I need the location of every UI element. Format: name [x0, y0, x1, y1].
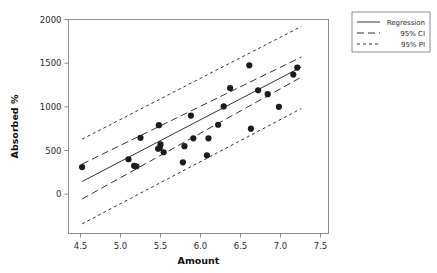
legend-label: 95% CI [400, 30, 425, 38]
data-point [190, 135, 196, 141]
x-axis-ticks [81, 234, 321, 238]
x-tick-label: 7.0 [274, 241, 288, 251]
data-point [161, 149, 167, 155]
data-point [205, 135, 211, 141]
y-tick-label: 500 [45, 146, 61, 156]
series-line [82, 26, 301, 139]
data-point [180, 159, 186, 165]
data-point [276, 104, 282, 110]
chart-legend: Regression95% CI95% PI [352, 12, 430, 52]
data-point [227, 85, 233, 91]
x-tick-label: 6.5 [234, 241, 248, 251]
x-tick-labels: 4.55.05.56.06.57.07.5 [74, 241, 328, 251]
data-point [290, 71, 296, 77]
confidence-bands [82, 26, 301, 223]
data-point [157, 141, 163, 147]
series-line [82, 109, 301, 224]
y-axis-title: Absorbed % [9, 94, 20, 158]
y-tick-labels: 0500100015002000 [40, 15, 62, 200]
x-tick-label: 5.0 [114, 241, 128, 251]
data-point [215, 122, 221, 128]
data-point [248, 126, 254, 132]
y-tick-label: 2000 [40, 15, 62, 25]
data-point [181, 143, 187, 149]
series-line [82, 67, 301, 181]
data-point [246, 62, 252, 68]
data-point [125, 156, 131, 162]
data-point [79, 164, 85, 170]
data-point [294, 64, 300, 70]
y-tick-label: 1500 [40, 58, 62, 68]
legend-label: Regression [387, 19, 425, 27]
data-point [156, 122, 162, 128]
x-tick-label: 7.5 [314, 241, 328, 251]
data-point [204, 152, 210, 158]
series-line [82, 57, 301, 164]
x-tick-label: 6.0 [194, 241, 208, 251]
data-point [133, 163, 139, 169]
y-axis-ticks [65, 20, 69, 195]
x-tick-label: 4.5 [74, 241, 88, 251]
data-points [79, 62, 300, 170]
chart-figure: 0500100015002000 4.55.05.56.06.57.07.5 A… [0, 0, 437, 273]
data-point [221, 103, 227, 109]
data-point [188, 112, 194, 118]
x-tick-label: 5.5 [154, 241, 168, 251]
y-tick-label: 0 [56, 189, 61, 199]
data-point [265, 91, 271, 97]
data-point [137, 135, 143, 141]
legend-label: 95% PI [401, 41, 425, 49]
plot-frame [69, 20, 329, 234]
data-point [255, 87, 261, 93]
y-tick-label: 1000 [40, 102, 62, 112]
x-axis-title: Amount [178, 255, 220, 266]
scatter-plot: 0500100015002000 4.55.05.56.06.57.07.5 A… [0, 0, 437, 273]
